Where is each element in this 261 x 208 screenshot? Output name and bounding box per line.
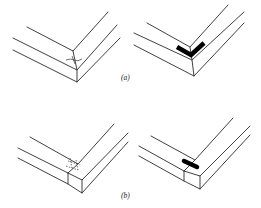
diagram-canvas: (a) (b) [0,0,261,208]
miter-joint-reinforced [134,5,244,76]
bar-fastener-icon [184,161,197,167]
butt-joint-reinforced [139,118,250,189]
miter-joint-plain [13,12,120,82]
dowel-marks-icon [66,158,80,170]
panel-label-a: (a) [121,73,130,82]
butt-joint-plain [18,124,128,193]
panel-label-b: (b) [121,191,130,200]
